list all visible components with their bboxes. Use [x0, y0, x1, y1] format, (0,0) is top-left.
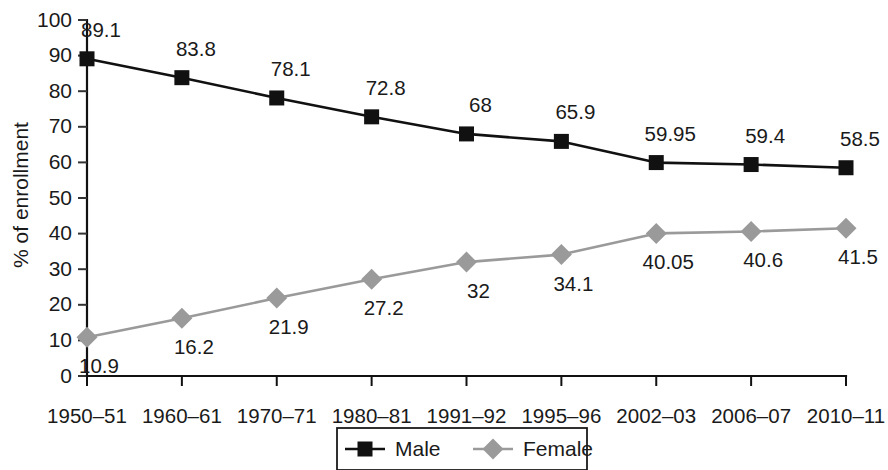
x-axis-tick-label: 1991–92 [427, 404, 507, 427]
data-point-marker-diamond [741, 221, 762, 242]
data-point-marker-diamond [361, 269, 382, 290]
y-axis-tick-label: 10 [49, 328, 72, 351]
y-axis-tick-label: 20 [49, 292, 72, 315]
data-point-marker-square [554, 134, 569, 149]
y-axis-tick-label: 40 [49, 221, 72, 244]
data-value-label: 21.9 [269, 315, 309, 338]
data-value-label: 40.6 [743, 248, 783, 271]
y-axis: 0102030405060708090100 [37, 8, 87, 387]
data-value-label: 34.1 [553, 272, 593, 295]
y-axis-tick-label: 50 [49, 186, 72, 209]
y-axis-tick-label: 70 [49, 114, 72, 137]
x-axis-tick-label: 1960–61 [142, 404, 222, 427]
data-point-marker-diamond [836, 218, 857, 239]
x-axis-tick-label: 2006–07 [711, 404, 791, 427]
chart-canvas: 0102030405060708090100 1950–511960–61197… [0, 0, 888, 470]
x-axis-tick-label: 1950–51 [47, 404, 127, 427]
data-value-label: 58.5 [840, 127, 880, 150]
data-labels-group: 89.183.878.172.86865.959.9559.458.510.91… [79, 18, 880, 377]
y-axis-tick-label: 0 [60, 364, 72, 387]
data-value-label: 27.2 [364, 296, 404, 319]
data-point-marker-square [459, 126, 474, 141]
y-axis-title: % of enrollment [9, 122, 32, 268]
data-point-marker-square [358, 442, 373, 457]
data-value-label: 41.5 [838, 245, 878, 268]
data-point-marker-square [80, 51, 95, 66]
data-point-marker-diamond [266, 288, 287, 309]
data-value-label: 83.8 [176, 37, 216, 60]
data-value-label: 68 [469, 93, 492, 116]
y-axis-tick-label: 30 [49, 257, 72, 280]
data-point-marker-square [174, 70, 189, 85]
y-axis-tick-label: 100 [37, 8, 72, 31]
data-value-label: 40.05 [643, 250, 694, 273]
data-series-group [77, 51, 857, 347]
enrollment-line-chart: 0102030405060708090100 1950–511960–61197… [0, 0, 888, 470]
data-value-label: 59.95 [645, 122, 696, 145]
data-point-marker-diamond [551, 244, 572, 265]
x-axis-tick-label: 2010–11 [807, 404, 885, 427]
data-point-marker-square [744, 157, 759, 172]
legend-label-male: Male [395, 437, 441, 460]
data-point-marker-square [839, 160, 854, 175]
data-value-label: 16.2 [174, 335, 214, 358]
x-axis-tick-label: 1980–81 [332, 404, 412, 427]
series-markers-male [80, 51, 854, 175]
data-value-label: 32 [467, 279, 490, 302]
data-point-marker-diamond [646, 223, 667, 244]
series-line-male [87, 59, 846, 168]
data-point-marker-diamond [456, 252, 477, 273]
data-point-marker-square [364, 109, 379, 124]
y-axis-tick-label: 80 [49, 79, 72, 102]
y-axis-tick-label: 60 [49, 150, 72, 173]
data-value-label: 78.1 [271, 57, 311, 80]
data-value-label: 89.1 [81, 18, 121, 41]
data-value-label: 10.9 [79, 354, 119, 377]
data-value-label: 59.4 [745, 124, 785, 147]
data-point-marker-square [649, 155, 664, 170]
data-point-marker-square [269, 90, 284, 105]
x-axis-tick-label: 2002–03 [616, 404, 696, 427]
chart-legend: MaleFemale [337, 428, 593, 470]
data-value-label: 65.9 [555, 100, 595, 123]
x-axis-tick-label: 1995–96 [521, 404, 601, 427]
data-point-marker-diamond [171, 308, 192, 329]
data-point-marker-diamond [77, 327, 98, 348]
legend-label-female: Female [523, 437, 593, 460]
x-axis-tick-label: 1970–71 [237, 404, 317, 427]
x-axis: 1950–511960–611970–711980–811991–921995–… [47, 376, 885, 427]
data-value-label: 72.8 [366, 76, 406, 99]
y-axis-tick-label: 90 [49, 43, 72, 66]
